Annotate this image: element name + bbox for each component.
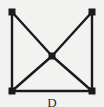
- node-bottom-left: [9, 88, 16, 95]
- edge-diagonal-tl-center: [12, 12, 52, 56]
- node-top-left: [9, 9, 16, 16]
- figure-caption: D: [0, 96, 104, 107]
- graph-edges: [12, 12, 92, 91]
- node-center: [49, 53, 56, 60]
- graph-figure: D: [0, 0, 104, 107]
- graph-canvas: [0, 0, 104, 107]
- node-top-right: [89, 9, 96, 16]
- edge-diagonal-tr-center: [52, 12, 92, 56]
- node-bottom-right: [89, 88, 96, 95]
- edge-diagonal-center-bl: [12, 56, 52, 91]
- edge-diagonal-center-br: [52, 56, 92, 91]
